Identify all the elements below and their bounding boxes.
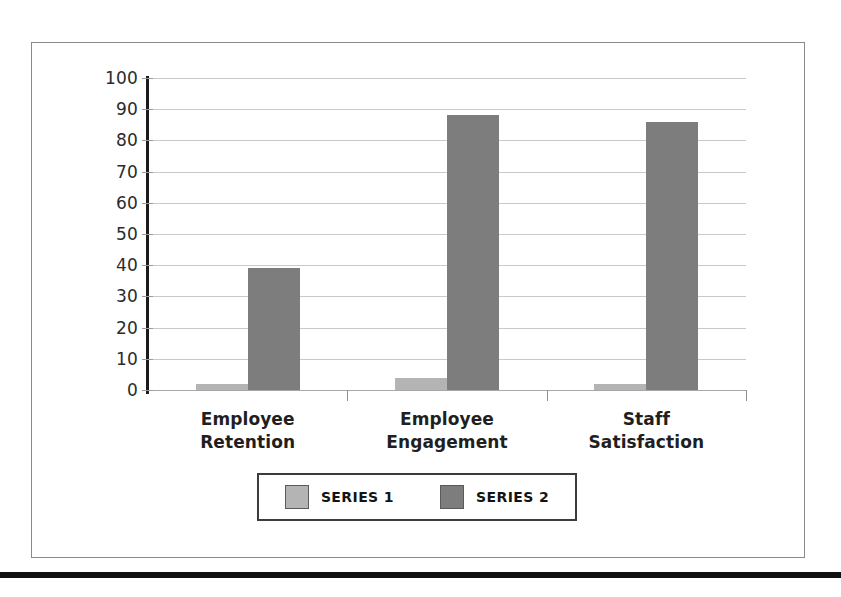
bar-2-2 — [447, 115, 499, 390]
y-axis-tick-mark — [142, 265, 153, 266]
y-axis-tick-label: 70 — [116, 162, 138, 182]
category-label-line2: Satisfaction — [547, 431, 746, 454]
bar-2-1 — [248, 268, 300, 390]
y-axis-tick-label: 10 — [116, 349, 138, 369]
category-label-line2: Engagement — [347, 431, 546, 454]
gridline — [148, 109, 746, 110]
legend-swatch-icon — [440, 485, 464, 509]
x-axis-tick-mark — [347, 390, 348, 401]
y-axis-tick-mark — [142, 172, 153, 173]
chart-legend: SERIES 1SERIES 2 — [257, 473, 577, 521]
gridline — [148, 78, 746, 79]
gridline — [148, 390, 746, 391]
bar-1-3 — [594, 384, 646, 390]
y-axis-tick-mark — [142, 234, 153, 235]
x-axis-tick-mark — [547, 390, 548, 401]
chart-frame: 1009080706050403020100 EmployeeRetention… — [31, 42, 805, 558]
y-axis-tick-mark — [142, 328, 153, 329]
plot-area — [148, 78, 746, 390]
y-axis-tick-label: 100 — [105, 68, 138, 88]
category-label-line1: Employee — [347, 408, 546, 431]
y-axis-tick-mark — [142, 78, 153, 79]
category-label-3: StaffSatisfaction — [547, 408, 746, 454]
y-axis-labels: 1009080706050403020100 — [72, 78, 138, 390]
legend-item-1[interactable]: SERIES 1 — [285, 485, 394, 509]
y-axis-tick-label: 80 — [116, 130, 138, 150]
legend-label: SERIES 1 — [321, 489, 394, 505]
y-axis-tick-mark — [142, 203, 153, 204]
category-axis-labels: EmployeeRetentionEmployeeEngagementStaff… — [148, 408, 746, 468]
y-axis-tick-label: 30 — [116, 286, 138, 306]
plot-wrapper: 1009080706050403020100 EmployeeRetention… — [32, 43, 806, 559]
category-label-line1: Employee — [148, 408, 347, 431]
y-axis-tick-label: 90 — [116, 99, 138, 119]
y-axis-tick-label: 20 — [116, 318, 138, 338]
footer-rule — [0, 572, 841, 578]
bar-1-1 — [196, 384, 248, 390]
y-axis-tick-mark — [142, 140, 153, 141]
legend-swatch-icon — [285, 485, 309, 509]
legend-label: SERIES 2 — [476, 489, 549, 505]
y-axis-tick-mark — [142, 296, 153, 297]
y-axis-tick-label: 60 — [116, 193, 138, 213]
y-axis-tick-label: 40 — [116, 255, 138, 275]
page-canvas: 1009080706050403020100 EmployeeRetention… — [0, 0, 841, 597]
bar-1-2 — [395, 378, 447, 390]
y-axis-tick-mark — [142, 359, 153, 360]
category-label-1: EmployeeRetention — [148, 408, 347, 454]
x-axis-tick-mark — [746, 390, 747, 401]
legend-item-2[interactable]: SERIES 2 — [440, 485, 549, 509]
bar-2-3 — [646, 122, 698, 390]
y-axis-tick-mark — [142, 390, 153, 391]
category-label-2: EmployeeEngagement — [347, 408, 546, 454]
y-axis-tick-label: 50 — [116, 224, 138, 244]
category-label-line2: Retention — [148, 431, 347, 454]
y-axis-line — [146, 76, 149, 394]
y-axis-tick-mark — [142, 109, 153, 110]
category-label-line1: Staff — [547, 408, 746, 431]
y-axis-tick-label: 0 — [127, 380, 138, 400]
